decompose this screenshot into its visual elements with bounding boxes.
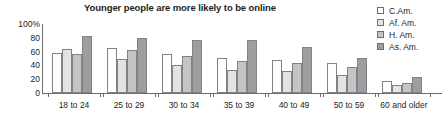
x-axis-tick bbox=[320, 93, 321, 97]
bar bbox=[382, 81, 392, 93]
bar bbox=[412, 77, 422, 93]
legend-label: H. Am. bbox=[389, 30, 415, 40]
bar bbox=[107, 48, 117, 93]
legend-label: As. Am. bbox=[389, 42, 418, 52]
chart-legend: C.Am.Af. Am.H. Am.As. Am. bbox=[377, 5, 442, 53]
bar-group bbox=[162, 24, 206, 93]
bar bbox=[192, 40, 202, 93]
bar bbox=[52, 53, 62, 93]
x-axis-tick bbox=[378, 93, 379, 97]
bar bbox=[292, 63, 302, 93]
bar-group bbox=[217, 24, 261, 93]
legend-label: C.Am. bbox=[389, 6, 413, 16]
chart-title: Younger people are more likely to be onl… bbox=[0, 2, 360, 13]
x-axis-tick-label: 30 to 34 bbox=[154, 100, 214, 110]
legend-swatch bbox=[377, 19, 384, 26]
bar bbox=[327, 63, 337, 93]
legend-item[interactable]: H. Am. bbox=[377, 29, 442, 40]
x-axis-tick bbox=[268, 93, 269, 97]
x-axis-tick bbox=[213, 93, 214, 97]
x-axis-tick-label: 50 to 59 bbox=[319, 100, 379, 110]
bar bbox=[357, 58, 367, 93]
legend-label: Af. Am. bbox=[389, 18, 416, 28]
bar bbox=[162, 54, 172, 93]
x-axis-tick-label: 60 and older bbox=[374, 100, 434, 110]
x-axis-tick-label: 35 to 39 bbox=[209, 100, 269, 110]
x-axis-tick bbox=[103, 93, 104, 97]
x-axis-tick-label: 40 to 49 bbox=[264, 100, 324, 110]
bar bbox=[137, 38, 147, 93]
x-axis-tick bbox=[375, 93, 376, 97]
legend-item[interactable]: C.Am. bbox=[377, 5, 442, 16]
bar bbox=[272, 60, 282, 93]
y-axis-labels: 100%806040200 bbox=[0, 24, 40, 93]
bar-group bbox=[327, 24, 371, 93]
y-axis-tick-label: 100% bbox=[4, 20, 40, 28]
y-axis-tick-label: 0 bbox=[4, 89, 40, 97]
y-axis-tick-label: 80 bbox=[4, 34, 40, 42]
bar bbox=[247, 40, 257, 93]
x-axis-tick bbox=[430, 93, 431, 97]
chart-container: Younger people are more likely to be onl… bbox=[0, 0, 442, 121]
bar bbox=[182, 56, 192, 93]
plot-area: 18 to 2425 to 2930 to 3435 to 3940 to 49… bbox=[42, 24, 358, 93]
y-axis-tick-label: 60 bbox=[4, 48, 40, 56]
legend-swatch bbox=[377, 31, 384, 38]
bar-group bbox=[107, 24, 151, 93]
x-axis-tick bbox=[158, 93, 159, 97]
bar bbox=[282, 71, 292, 93]
bar-group bbox=[272, 24, 316, 93]
x-axis-tick bbox=[210, 93, 211, 97]
legend-item[interactable]: As. Am. bbox=[377, 41, 442, 52]
bar bbox=[117, 59, 127, 94]
bar-group bbox=[52, 24, 96, 93]
bar bbox=[227, 70, 237, 93]
bar bbox=[172, 65, 182, 93]
bar bbox=[82, 36, 92, 93]
bar bbox=[72, 54, 82, 93]
x-axis-tick bbox=[48, 93, 49, 97]
x-axis-line bbox=[42, 93, 442, 94]
legend-swatch bbox=[377, 43, 384, 50]
y-axis-line bbox=[42, 24, 43, 93]
bar bbox=[217, 58, 227, 93]
x-axis-tick-label: 25 to 29 bbox=[99, 100, 159, 110]
legend-item[interactable]: Af. Am. bbox=[377, 17, 442, 28]
bar bbox=[392, 85, 402, 93]
bar bbox=[237, 61, 247, 93]
bar bbox=[127, 50, 137, 93]
x-axis-tick bbox=[323, 93, 324, 97]
bar bbox=[302, 47, 312, 93]
x-axis-tick-label: 18 to 24 bbox=[44, 100, 104, 110]
bar bbox=[402, 83, 412, 93]
bar bbox=[347, 67, 357, 93]
bar bbox=[337, 75, 347, 93]
y-axis-tick-label: 20 bbox=[4, 75, 40, 83]
y-axis-tick-label: 40 bbox=[4, 61, 40, 69]
x-axis-tick bbox=[155, 93, 156, 97]
x-axis-tick bbox=[100, 93, 101, 97]
x-axis-tick bbox=[265, 93, 266, 97]
legend-swatch bbox=[377, 7, 384, 14]
bar bbox=[62, 49, 72, 93]
